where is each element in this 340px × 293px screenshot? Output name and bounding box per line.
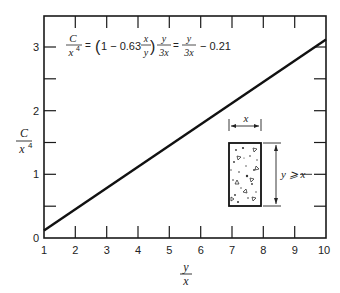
y-label-exponent: 4 (28, 141, 33, 150)
formula-frac3-den: 3x (183, 47, 194, 58)
y-tick-label: 2 (33, 105, 39, 117)
y-label-numerator: C (20, 126, 29, 140)
x-tick-label: 2 (72, 244, 78, 256)
formula-lhs-exp: 4 (76, 45, 80, 52)
formula-one-minus: 1 − 0.63 (101, 40, 141, 52)
formula-lhs-den: x (68, 46, 74, 58)
x-tick-label: 9 (292, 244, 298, 256)
formula-lhs-num: C (69, 32, 77, 44)
cross-section-inset: x y ⩾ x (229, 112, 312, 206)
y-tick-label: 1 (33, 168, 39, 180)
x-tick-label: 7 (229, 244, 235, 256)
x-tick-label: 1 (41, 244, 47, 256)
x-label-numerator: y (182, 260, 189, 274)
inset-width-label: x (243, 112, 249, 124)
y-tick-labels: 0 1 2 3 (33, 41, 39, 244)
x-tick-label: 5 (166, 244, 172, 256)
formula-tail: − 0.21 (200, 40, 231, 52)
formula-close-paren: ) (150, 38, 155, 55)
formula-frac1-num: x (143, 33, 149, 44)
y-ticks-right (314, 47, 326, 206)
formula-eq1: = (85, 40, 91, 51)
y-tick-label: 0 (33, 232, 39, 244)
concrete-section (229, 143, 261, 206)
x-label-denominator: x (182, 274, 189, 288)
formula-frac3-num: y (186, 33, 192, 44)
y-ticks-left (44, 47, 56, 206)
y-axis-label: C x 4 (16, 126, 33, 156)
data-line (44, 39, 326, 230)
x-ticks-bottom (75, 226, 294, 238)
x-tick-label: 3 (104, 244, 110, 256)
x-axis-label: y x (180, 260, 192, 288)
x-tick-label: 10 (318, 244, 330, 256)
formula-frac1-den: y (143, 47, 149, 58)
y-label-denominator: x (18, 142, 25, 156)
formula-annotation: C x 4 = ( 1 − 0.63 x y ) y 3x = y 3x − 0… (66, 32, 231, 58)
x-tick-labels: 1 2 3 4 5 6 7 8 9 10 (41, 244, 330, 256)
x-ticks-top (75, 16, 294, 28)
y-tick-label: 3 (33, 41, 39, 53)
x-tick-label: 4 (135, 244, 141, 256)
formula-frac2-num: y (161, 33, 167, 44)
formula-eq2: = (173, 40, 179, 51)
chart: 1 2 3 4 5 6 7 8 9 10 0 1 2 3 C x 4 y x C… (0, 0, 340, 293)
formula-frac2-den: 3x (158, 47, 169, 58)
x-tick-label: 6 (198, 244, 204, 256)
x-tick-label: 8 (260, 244, 266, 256)
